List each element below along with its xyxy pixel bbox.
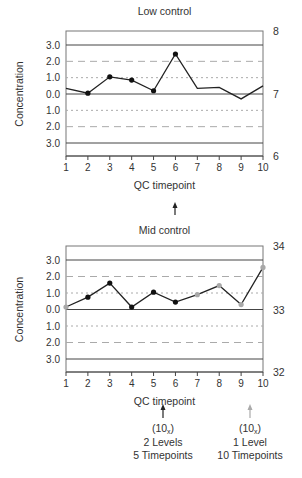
mid-x-tick-label: 1	[63, 378, 69, 389]
mid-left-tick-label: 1.0	[46, 321, 60, 332]
low-right-tick-label: 6	[273, 150, 279, 162]
mid-left-tick-label: 3.0	[46, 255, 60, 266]
low-left-tick-label: 3.0	[46, 40, 60, 51]
annotation-right-line2: 1 Level	[233, 436, 267, 448]
low-data-point	[151, 88, 156, 93]
low-x-tick-label: 5	[151, 162, 157, 173]
low-data-point	[107, 74, 112, 79]
low-x-tick-label: 10	[257, 162, 269, 173]
low-x-tick-label: 8	[216, 162, 222, 173]
qc-charts: Low control3.02.01.00.01.02.03.087612345…	[0, 0, 302, 478]
low-data-point	[129, 78, 134, 83]
mid-right-tick-label: 34	[273, 240, 285, 252]
low-left-tick-label: 3.0	[46, 138, 60, 149]
mid-right-tick-label: 33	[273, 304, 285, 316]
mid-x-axis-label: QC timepoint	[134, 395, 195, 407]
mid-data-point	[151, 290, 156, 295]
low-x-tick-label: 1	[63, 162, 69, 173]
low-x-tick-label: 4	[129, 162, 135, 173]
mid-left-tick-label: 2.0	[46, 337, 60, 348]
mid-x-tick-label: 10	[257, 378, 269, 389]
low-x-tick-label: 7	[195, 162, 201, 173]
mid-data-point	[85, 295, 90, 300]
low-left-tick-label: 0.0	[46, 89, 60, 100]
mid-data-point	[129, 304, 134, 309]
up-arrow-icon-head	[248, 404, 253, 410]
mid-left-tick-label: 1.0	[46, 288, 60, 299]
low-left-tick-label: 1.0	[46, 105, 60, 116]
low-right-tick-label: 8	[273, 25, 279, 37]
mid-data-line	[66, 267, 263, 307]
mid-data-point	[239, 302, 244, 307]
mid-x-tick-label: 7	[195, 378, 201, 389]
low-left-tick-label: 2.0	[46, 121, 60, 132]
low-data-point	[173, 51, 178, 56]
up-arrow-icon-head	[173, 202, 178, 208]
mid-data-point	[173, 299, 178, 304]
low-right-tick-label: 7	[273, 88, 279, 100]
mid-data-point	[107, 281, 112, 286]
mid-data-point	[63, 304, 68, 309]
low-x-tick-label: 2	[85, 162, 91, 173]
low-x-tick-label: 9	[238, 162, 244, 173]
mid-left-tick-label: 2.0	[46, 271, 60, 282]
mid-y-axis-label: Concentration	[13, 277, 25, 343]
mid-right-tick-label: 32	[273, 366, 285, 378]
annotation-right-line1: (10x)	[239, 422, 261, 435]
mid-chart-title: Mid control	[139, 224, 190, 236]
low-left-tick-label: 2.0	[46, 56, 60, 67]
low-x-tick-label: 6	[173, 162, 179, 173]
low-data-line	[66, 54, 263, 99]
mid-x-tick-label: 6	[173, 378, 179, 389]
mid-x-tick-label: 2	[85, 378, 91, 389]
annotation-left-line1: (10x)	[152, 422, 174, 435]
mid-data-point	[195, 292, 200, 297]
annotation-left-line3: 5 Timepoints	[133, 449, 193, 461]
mid-left-tick-label: 0.0	[46, 304, 60, 315]
annotation-right-line3: 10 Timepoints	[217, 449, 282, 461]
low-x-tick-label: 3	[107, 162, 113, 173]
low-y-axis-label: Concentration	[13, 61, 25, 127]
mid-x-tick-label: 9	[238, 378, 244, 389]
mid-x-tick-label: 8	[216, 378, 222, 389]
low-chart-title: Low control	[138, 5, 192, 17]
mid-x-tick-label: 4	[129, 378, 135, 389]
mid-data-point	[217, 283, 222, 288]
mid-data-point	[260, 265, 265, 270]
low-left-tick-label: 1.0	[46, 72, 60, 83]
mid-x-tick-label: 3	[107, 378, 113, 389]
annotation-left-line2: 2 Levels	[143, 436, 182, 448]
mid-left-tick-label: 3.0	[46, 354, 60, 365]
mid-x-tick-label: 5	[151, 378, 157, 389]
low-data-point	[85, 91, 90, 96]
low-x-axis-label: QC timepoint	[134, 179, 195, 191]
